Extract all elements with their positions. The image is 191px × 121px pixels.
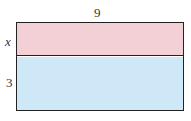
outer-rectangle [16, 22, 184, 111]
bottom-section-height-label: 3 [6, 76, 13, 89]
top-section-rect [17, 23, 183, 55]
width-label: 9 [94, 6, 101, 19]
bottom-section-rect [17, 57, 183, 111]
top-section-height-label: x [5, 35, 11, 48]
